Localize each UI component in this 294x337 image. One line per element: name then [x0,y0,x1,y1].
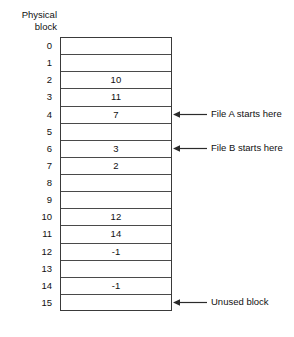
column-header-line-1: Physical [0,9,57,21]
annotation-label: Unused block [211,297,269,307]
block-index-label: 3 [28,88,56,105]
annotation-callout: Unused block [172,294,269,311]
fat-table-row: 11 [61,89,171,106]
block-index-label: 13 [28,260,56,277]
block-index-label: 9 [28,191,56,208]
column-header: Physical block [0,9,57,33]
fat-table-row: 7 [61,107,171,124]
left-arrow-icon [173,110,207,119]
left-arrow-icon [173,144,207,153]
block-index-label: 15 [28,294,56,311]
fat-cell-value: -1 [112,247,121,257]
annotation-callout: File A starts here [172,106,282,123]
fat-table-row: 12 [61,209,171,226]
fat-table-row [61,295,171,312]
fat-table-row [61,124,171,141]
column-header-line-2: block [0,21,57,33]
annotation-callout: File B starts here [172,140,283,157]
block-index-label: 8 [28,174,56,191]
fat-cell-value: 3 [113,144,118,154]
block-index-label: 0 [28,37,56,54]
fat-cell-value: 2 [113,161,118,171]
fat-table-row [61,192,171,209]
fat-cell-value: -1 [112,281,121,291]
fat-cell-value: 11 [111,92,121,102]
fat-cell-value: 7 [113,110,118,120]
fat-table-row: 3 [61,141,171,158]
fat-table-row [61,261,171,278]
fat-table: 10117321214-1-1 [60,37,172,311]
fat-table-row: -1 [61,244,171,261]
fat-diagram: Physical block 0123456789101112131415 10… [0,0,294,337]
fat-cell-value: 10 [111,75,122,85]
block-index-label: 11 [28,225,56,242]
block-index-label: 4 [28,106,56,123]
block-index-label: 12 [28,243,56,260]
fat-cell-value: 12 [111,212,122,222]
annotation-label: File A starts here [211,109,282,119]
fat-cell-value: 14 [111,229,122,239]
block-index-label: 10 [28,208,56,225]
block-index-label: 14 [28,277,56,294]
block-index-label: 2 [28,71,56,88]
fat-table-row: 14 [61,226,171,243]
left-arrow-icon [173,298,207,307]
block-index-label: 5 [28,123,56,140]
block-index-label: 1 [28,54,56,71]
block-index-column: 0123456789101112131415 [28,37,56,311]
fat-table-row [61,175,171,192]
fat-table-row [61,38,171,55]
fat-table-row: 10 [61,72,171,89]
fat-table-row [61,55,171,72]
block-index-label: 7 [28,157,56,174]
annotation-label: File B starts here [211,143,283,153]
fat-table-row: 2 [61,158,171,175]
fat-table-row: -1 [61,278,171,295]
block-index-label: 6 [28,140,56,157]
